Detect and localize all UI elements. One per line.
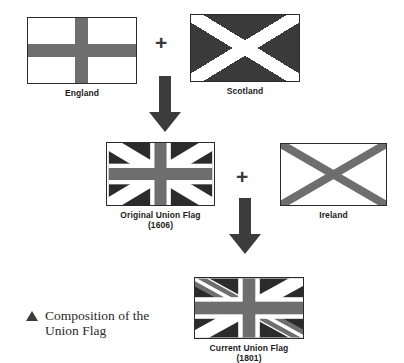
plus-symbol: + [236,165,248,188]
flag-ireland [280,143,387,206]
flag-block-original-union-flag: Original Union Flag (1606) [106,142,215,230]
arrow-down-to-original-union-flag [148,76,182,133]
flag-label-year: (1801) [194,353,304,363]
figure-caption-line1: Composition of the [45,308,149,323]
figure-caption-line2: Union Flag [45,323,149,338]
flag-original-union-flag [106,142,215,206]
flag-label-text: Current Union Flag [210,343,289,353]
plus-symbol: + [155,31,167,54]
flag-england [27,17,137,84]
flag-label-text: England [65,88,99,98]
flag-label-text: Ireland [319,210,348,220]
figure-caption-text: Composition of the Union Flag [45,308,149,338]
triangle-marker-icon [26,311,38,321]
flag-label-text: Original Union Flag [120,210,200,220]
flag-block-ireland: Ireland [280,143,387,220]
flag-label-text: Scotland [227,86,264,96]
figure-caption: Composition of the Union Flag [26,308,186,338]
plus-icon-original-ireland: + [236,166,248,187]
flag-label-ireland: Ireland [280,210,387,220]
flag-scotland [190,14,300,82]
plus-icon-england-scotland: + [155,32,167,53]
flag-block-current-union-flag: Current Union Flag (1801) [194,277,304,363]
flag-block-scotland: Scotland [190,14,300,96]
flag-label-year: (1606) [106,220,215,230]
flag-label-original-union-flag: Original Union Flag (1606) [106,210,215,230]
arrow-down-to-current-union-flag [228,198,262,255]
flag-label-england: England [27,88,137,98]
flag-label-current-union-flag: Current Union Flag (1801) [194,343,304,363]
flag-block-england: England [27,17,137,98]
flag-current-union-flag [194,277,304,339]
flag-label-scotland: Scotland [190,86,300,96]
